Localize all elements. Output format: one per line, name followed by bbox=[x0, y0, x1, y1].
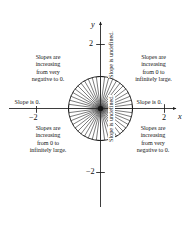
annotation-quadrant-2: Slopes are increasing from very negative… bbox=[18, 54, 78, 83]
y-tick-label-plus-2: 2 bbox=[89, 39, 93, 48]
x-axis-label: x bbox=[178, 112, 182, 121]
x-tick-label-minus-2: −2 bbox=[29, 113, 38, 122]
annotation-x-axis-left: Slope is 0. bbox=[14, 99, 41, 106]
annotation-quadrant-1: Slopes are increasing from 0 to infinite… bbox=[122, 54, 185, 83]
y-axis-label: y bbox=[91, 20, 95, 29]
x-tick-label-plus-2: 2 bbox=[162, 113, 166, 122]
annotation-quadrant-3: Slopes are increasing from 0 to infinite… bbox=[17, 125, 79, 154]
annotation-y-axis-lower: Slope is undefined. bbox=[108, 95, 115, 142]
annotation-quadrant-4: Slopes are increasing from very negative… bbox=[122, 125, 184, 154]
y-tick-label-minus-2: −2 bbox=[86, 167, 95, 176]
annotation-x-axis-right: Slope is 0. bbox=[136, 99, 163, 106]
origin-dot bbox=[98, 106, 103, 111]
slope-field-figure: Slopes are increasing from very negative… bbox=[0, 0, 189, 225]
annotation-y-axis-upper: Slope is undefined. bbox=[108, 31, 115, 78]
